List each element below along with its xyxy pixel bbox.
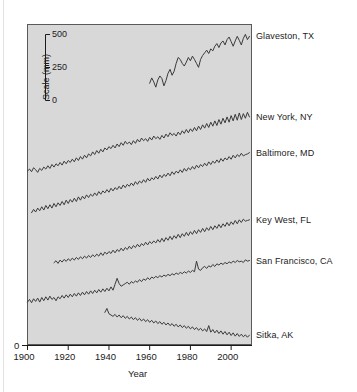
chart-canvas bbox=[0, 0, 357, 392]
x-axis-tick-label: 1900 bbox=[14, 352, 35, 362]
series-label: Baltimore, MD bbox=[256, 149, 314, 158]
x-axis-tick-label: 1940 bbox=[95, 352, 116, 362]
x-axis-tick-label: 2000 bbox=[217, 352, 238, 362]
scale-inset-tick-label: 250 bbox=[52, 63, 67, 72]
series-label: Sitka, AK bbox=[256, 331, 293, 340]
origin-zero-label: 0 bbox=[14, 341, 19, 351]
series-label: Key West, FL bbox=[256, 216, 311, 225]
scale-inset-tick-label: 500 bbox=[52, 30, 67, 39]
series-label: San Francisco, CA bbox=[256, 257, 333, 266]
x-axis-ticks bbox=[28, 346, 232, 351]
scale-inset-tick-label: 0 bbox=[52, 96, 57, 105]
x-axis-tick-label: 1920 bbox=[54, 352, 75, 362]
series-label: New York, NY bbox=[256, 113, 313, 122]
sea-level-chart-figure: Scale (mm) 5002500 0 1900192019401960198… bbox=[0, 0, 357, 392]
x-axis-title: Year bbox=[128, 369, 147, 379]
x-axis-tick-label: 1980 bbox=[176, 352, 197, 362]
scale-axis-title: Scale (mm) bbox=[42, 54, 51, 100]
x-axis-tick-label: 1960 bbox=[136, 352, 157, 362]
series-label: Glaveston, TX bbox=[256, 32, 314, 41]
